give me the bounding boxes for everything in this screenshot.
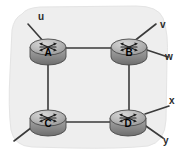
label-v: v xyxy=(160,20,166,30)
router-label-d: D xyxy=(124,118,131,129)
router-label-c: C xyxy=(44,118,51,129)
router-label-b: B xyxy=(125,47,132,58)
network-diagram-canvas: ABCD uvwxy xyxy=(0,0,188,157)
router-d[interactable]: D xyxy=(110,110,146,136)
label-u: u xyxy=(38,12,44,22)
router-b[interactable]: B xyxy=(111,39,147,65)
router-c[interactable]: C xyxy=(30,110,66,136)
label-y: y xyxy=(163,136,169,146)
label-w: w xyxy=(165,52,173,62)
router-a[interactable]: A xyxy=(30,39,66,65)
label-x: x xyxy=(169,96,175,106)
router-label-a: A xyxy=(44,47,51,58)
